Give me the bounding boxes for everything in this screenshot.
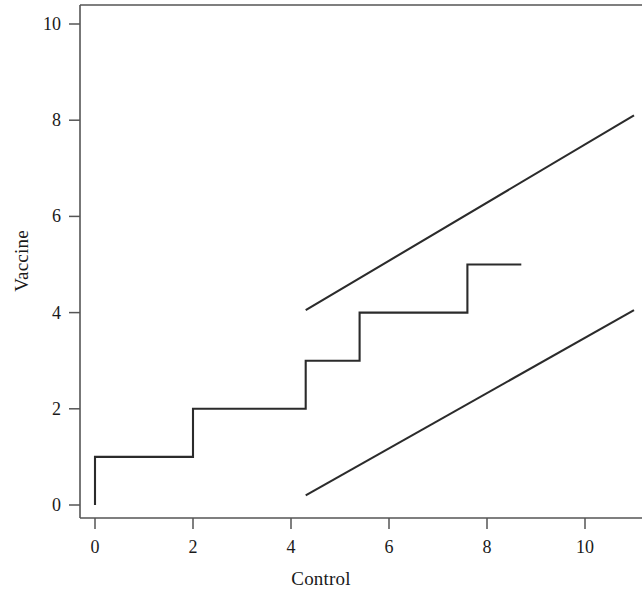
x-axis-ticks xyxy=(95,518,585,529)
upper-confidence-band xyxy=(306,115,634,310)
x-tick-label: 4 xyxy=(287,537,296,557)
lower-confidence-band xyxy=(306,310,634,495)
y-axis-label: Vaccine xyxy=(11,211,33,311)
y-axis-tick-labels: 0246810 xyxy=(43,14,61,515)
x-tick-label: 8 xyxy=(483,537,492,557)
y-axis-ticks xyxy=(69,24,80,505)
y-tick-label: 8 xyxy=(52,110,61,130)
y-tick-label: 4 xyxy=(52,303,61,323)
y-tick-label: 6 xyxy=(52,206,61,226)
y-tick-label: 2 xyxy=(52,399,61,419)
y-tick-label: 0 xyxy=(52,495,61,515)
x-tick-label: 0 xyxy=(91,537,100,557)
x-tick-label: 10 xyxy=(576,537,594,557)
x-axis-label: Control xyxy=(0,568,642,590)
axis-spines xyxy=(80,5,642,518)
y-tick-label: 10 xyxy=(43,14,61,34)
chart-plot-area: 0246810 0246810 xyxy=(0,0,642,601)
x-axis-tick-labels: 0246810 xyxy=(91,537,595,557)
empirical-step-curve xyxy=(95,265,521,506)
x-tick-label: 2 xyxy=(189,537,198,557)
data-series-layer xyxy=(95,115,634,505)
x-tick-label: 6 xyxy=(385,537,394,557)
chart-figure: 0246810 0246810 Control Vaccine xyxy=(0,0,642,601)
